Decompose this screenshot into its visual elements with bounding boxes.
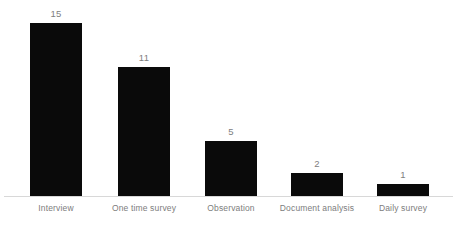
category-label: Daily survey: [368, 203, 438, 214]
bar-value-label: 2: [291, 158, 343, 169]
bar-group: 5: [205, 0, 257, 196]
bar-value-label: 1: [377, 169, 429, 180]
bar-value-label: 5: [205, 126, 257, 137]
bar-chart: 15 11 5 2 1 Interview One time survey Ob…: [0, 0, 457, 228]
bar-group: 2: [291, 0, 343, 196]
category-label: Interview: [30, 203, 82, 214]
x-axis-line: [4, 196, 453, 197]
bar-value-label: 11: [118, 52, 170, 63]
category-axis: Interview One time survey Observation Do…: [0, 199, 457, 228]
bar-group: 11: [118, 0, 170, 196]
bar[interactable]: [118, 67, 170, 196]
category-label: One time survey: [104, 203, 184, 214]
bar[interactable]: [377, 184, 429, 196]
bar-group: 1: [377, 0, 429, 196]
bar[interactable]: [30, 23, 82, 196]
category-label: Document analysis: [272, 203, 362, 214]
bar[interactable]: [205, 141, 257, 196]
bar-group: 15: [30, 0, 82, 196]
plot-area: 15 11 5 2 1: [0, 0, 457, 196]
bar[interactable]: [291, 173, 343, 196]
bar-value-label: 15: [30, 8, 82, 19]
category-label: Observation: [196, 203, 266, 214]
